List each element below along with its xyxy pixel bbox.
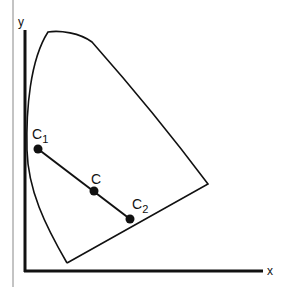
point-c — [90, 187, 99, 196]
mixing-line — [38, 149, 130, 219]
chromaticity-diagram: y x C1 C C2 — [0, 0, 296, 293]
point-c1 — [34, 145, 43, 154]
x-axis-label: x — [267, 264, 273, 278]
point-c2 — [126, 215, 135, 224]
spectral-locus — [27, 31, 208, 263]
label-c2: C2 — [132, 196, 148, 215]
label-c1: C1 — [32, 126, 48, 145]
label-c: C — [91, 171, 101, 187]
y-axis-label: y — [18, 15, 24, 29]
